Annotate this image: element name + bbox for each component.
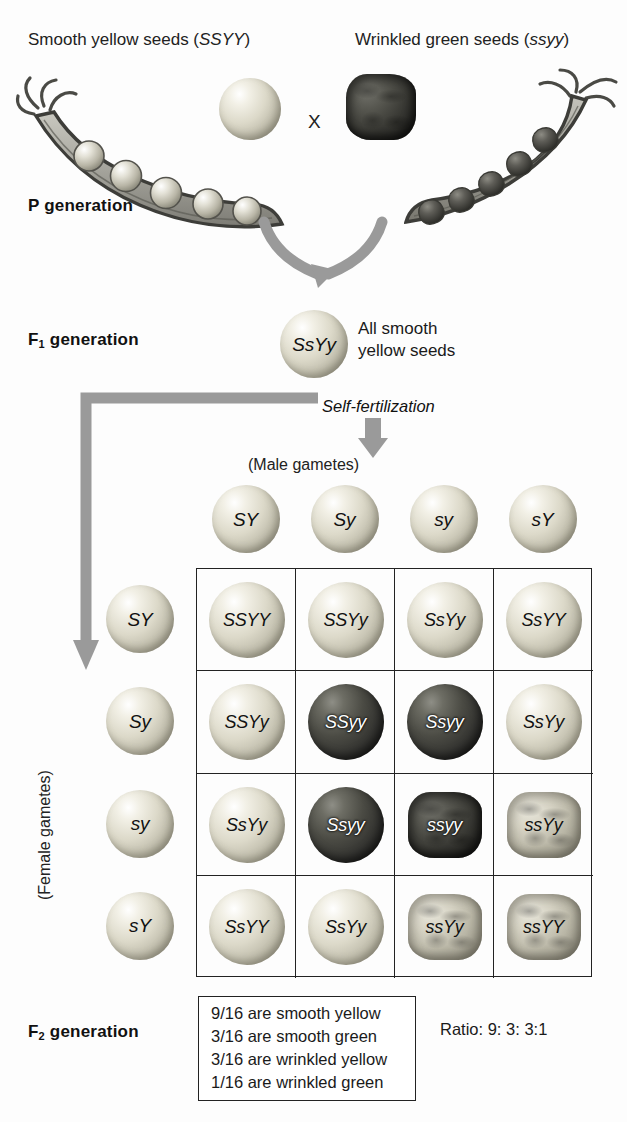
genotype-text: Ssyy bbox=[326, 816, 364, 834]
self-fertilization-label: Self-fertilization bbox=[322, 397, 435, 416]
f1-generation-letter: F bbox=[28, 330, 39, 349]
punnett-cell: Ssyy bbox=[395, 671, 494, 773]
punnett-cell: SsYy bbox=[197, 774, 296, 876]
punnett-cell: SSYy bbox=[296, 569, 395, 671]
f1-phenotype-description: All smooth yellow seeds bbox=[358, 318, 455, 362]
punnett-cell: SsYy bbox=[395, 569, 494, 671]
f1-phenotype-line2: yellow seeds bbox=[358, 340, 455, 362]
punnett-offspring-SsYY: SsYY bbox=[506, 582, 582, 658]
right-parent-caption-text: Wrinkled green seeds ( bbox=[355, 30, 530, 49]
punnett-offspring-Ssyy: Ssyy bbox=[308, 787, 384, 863]
punnett-offspring-SSyy: SSyy bbox=[308, 684, 384, 760]
female-gamete-sy: sy bbox=[106, 790, 174, 858]
p-to-f1-arrows bbox=[258, 218, 388, 296]
genotype-text: sY bbox=[129, 916, 151, 935]
genotype-text: SsYy bbox=[226, 816, 267, 834]
genotype-text: SsYY bbox=[521, 611, 565, 629]
punnett-cell: ssYy bbox=[494, 774, 593, 876]
cross-symbol: X bbox=[308, 111, 321, 133]
f1-generation-label: F1 generation bbox=[28, 330, 139, 350]
genotype-text: SY bbox=[233, 510, 258, 529]
p-generation-letter: P bbox=[28, 196, 39, 215]
female-gamete-sY: sY bbox=[106, 892, 174, 960]
left-parent-genotype: SSYY bbox=[199, 30, 244, 49]
right-parent-genotype: ssyy bbox=[530, 30, 564, 49]
result-line: 3/16 are wrinkled yellow bbox=[211, 1048, 406, 1071]
punnett-cell: ssYY bbox=[494, 876, 593, 978]
punnett-cell: SSyy bbox=[296, 671, 395, 773]
male-gamete-SY: SY bbox=[212, 485, 280, 553]
genotype-text: ssYY bbox=[523, 918, 564, 936]
result-line: 3/16 are smooth green bbox=[211, 1025, 406, 1048]
punnett-offspring-SsYy: SsYy bbox=[407, 582, 483, 658]
female-gamete-Sy: Sy bbox=[106, 687, 174, 755]
punnett-cell: SsYy bbox=[296, 876, 395, 978]
right-parent-caption-close: ) bbox=[564, 30, 570, 49]
punnett-offspring-SSYY: SSYY bbox=[209, 582, 285, 658]
genotype-text: Sy bbox=[129, 712, 151, 731]
genotype-text: SsYy bbox=[424, 611, 465, 629]
left-parent-caption: Smooth yellow seeds (SSYY) bbox=[28, 30, 250, 50]
male-gamete-sy: sy bbox=[410, 485, 478, 553]
left-parent-caption-text: Smooth yellow seeds ( bbox=[28, 30, 199, 49]
p-generation-label: P generation bbox=[28, 196, 133, 216]
pea-pod-wrinkled-green bbox=[404, 62, 627, 242]
punnett-offspring-ssyy: ssyy bbox=[408, 792, 482, 858]
genotype-text: SSYy bbox=[323, 611, 367, 629]
f1-seed-ssyy: SsYy bbox=[280, 310, 348, 378]
punnett-cell: ssyy bbox=[395, 774, 494, 876]
self-fertilization-down-arrow bbox=[356, 418, 390, 460]
genotype-text: ssYy bbox=[524, 816, 562, 834]
genotype-text: SsYy bbox=[325, 918, 366, 936]
genotype-text: SsYy bbox=[523, 713, 564, 731]
punnett-square: SSYYSSYySsYySsYYSSYySSyySsyySsYySsYySsyy… bbox=[196, 568, 592, 977]
punnett-cell: SSYy bbox=[197, 671, 296, 773]
female-gametes-label: (Female gametes) bbox=[36, 770, 54, 900]
punnett-offspring-SSYy: SSYy bbox=[308, 582, 384, 658]
male-gamete-Sy: Sy bbox=[311, 485, 379, 553]
genotype-text: SSYY bbox=[223, 611, 270, 629]
f1-generation-word: generation bbox=[45, 330, 139, 349]
f1-phenotype-line1: All smooth bbox=[358, 318, 455, 340]
left-parent-caption-close: ) bbox=[244, 30, 250, 49]
parent-seed-smooth-yellow bbox=[219, 78, 281, 140]
genotype-text: sy bbox=[434, 510, 453, 529]
punnett-offspring-SsYy: SsYy bbox=[308, 889, 384, 965]
right-parent-caption: Wrinkled green seeds (ssyy) bbox=[355, 30, 569, 50]
punnett-offspring-SsYy: SsYy bbox=[506, 684, 582, 760]
f2-generation-label: F2 generation bbox=[28, 1022, 139, 1042]
punnett-offspring-ssYy: ssYy bbox=[507, 792, 581, 858]
punnett-cell: SsYY bbox=[494, 569, 593, 671]
punnett-cell: ssYy bbox=[395, 876, 494, 978]
punnett-offspring-Ssyy: Ssyy bbox=[407, 684, 483, 760]
genotype-text: SSYy bbox=[224, 713, 268, 731]
punnett-offspring-SsYy: SsYy bbox=[209, 787, 285, 863]
punnett-cell: Ssyy bbox=[296, 774, 395, 876]
f2-generation-word: generation bbox=[45, 1022, 139, 1041]
genotype-text: sY bbox=[532, 510, 554, 529]
genetics-diagram-page: Smooth yellow seeds (SSYY) Wrinkled gree… bbox=[0, 0, 627, 1122]
punnett-offspring-ssYy: ssYy bbox=[408, 894, 482, 960]
phenotypic-ratio-text: Ratio: 9: 3: 3:1 bbox=[440, 1020, 547, 1039]
genotype-text: Sy bbox=[334, 510, 356, 529]
punnett-cell: SsYy bbox=[494, 671, 593, 773]
f1-generation-subscript: 1 bbox=[39, 338, 45, 350]
punnett-cell: SSYY bbox=[197, 569, 296, 671]
genotype-text: ssYy bbox=[425, 918, 463, 936]
male-gamete-sY: sY bbox=[509, 485, 577, 553]
result-line: 9/16 are smooth yellow bbox=[211, 1002, 406, 1025]
punnett-offspring-SSYy: SSYy bbox=[209, 684, 285, 760]
female-gamete-SY: SY bbox=[106, 585, 174, 653]
genotype-text: sy bbox=[131, 814, 150, 833]
genotype-text: Ssyy bbox=[425, 713, 463, 731]
male-gametes-label: (Male gametes) bbox=[248, 456, 359, 474]
result-line: 1/16 are wrinkled green bbox=[211, 1071, 406, 1094]
punnett-offspring-ssYY: ssYY bbox=[507, 894, 581, 960]
genotype-text: SSyy bbox=[325, 713, 366, 731]
genotype-text: SsYY bbox=[224, 918, 268, 936]
punnett-cell: SsYY bbox=[197, 876, 296, 978]
f2-results-box: 9/16 are smooth yellow 3/16 are smooth g… bbox=[198, 996, 416, 1101]
f2-generation-letter: F bbox=[28, 1022, 39, 1041]
punnett-offspring-SsYY: SsYY bbox=[209, 889, 285, 965]
genotype-text: ssyy bbox=[427, 816, 462, 834]
